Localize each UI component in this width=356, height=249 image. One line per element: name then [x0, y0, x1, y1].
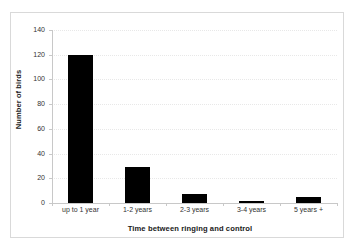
y-tick-label: 20 — [11, 174, 45, 181]
y-tick-mark — [49, 79, 52, 80]
x-tick-label: 3-4 years — [223, 206, 280, 213]
y-tick-mark — [49, 104, 52, 105]
x-tick-label: 2-3 years — [166, 206, 223, 213]
x-tick-mark — [52, 203, 53, 206]
bar — [296, 197, 321, 203]
bar — [68, 55, 93, 203]
x-tick-label: up to 1 year — [52, 206, 109, 213]
y-tick-mark — [49, 178, 52, 179]
x-tick-mark — [337, 203, 338, 206]
y-tick-mark — [49, 154, 52, 155]
bar — [125, 167, 150, 203]
y-tick-label: 140 — [11, 26, 45, 33]
bars-layer — [52, 30, 337, 203]
x-tick-label: 5 years + — [280, 206, 337, 213]
y-tick-label: 100 — [11, 75, 45, 82]
y-tick-label: 0 — [11, 199, 45, 206]
y-tick-label: 80 — [11, 100, 45, 107]
x-axis-line — [52, 203, 337, 204]
y-tick-label: 40 — [11, 150, 45, 157]
y-tick-mark — [49, 129, 52, 130]
bar — [182, 194, 207, 203]
y-tick-mark — [49, 55, 52, 56]
x-tick-label: 1-2 years — [109, 206, 166, 213]
chart-figure: Number of birds Time between ringing and… — [0, 0, 356, 249]
x-axis-title: Time between ringing and control — [40, 224, 340, 233]
y-tick-label: 120 — [11, 51, 45, 58]
bar — [239, 201, 264, 203]
y-tick-mark — [49, 30, 52, 31]
y-tick-label: 60 — [11, 125, 45, 132]
